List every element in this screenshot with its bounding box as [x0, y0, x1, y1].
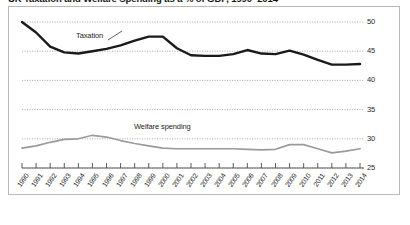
y-axis-tick-label: 35 [367, 105, 375, 114]
series-line-welfare-spending [22, 135, 360, 153]
footer-band [0, 207, 410, 225]
y-axis-tick-label: 30 [367, 134, 375, 143]
gridlines [22, 22, 364, 168]
series-line-taxation [22, 22, 360, 65]
series-lines [22, 22, 360, 153]
y-axis-tick-label: 40 [367, 75, 375, 84]
series-label-welfare: Welfare spending [134, 122, 191, 131]
y-axis-tick-label: 45 [367, 46, 375, 55]
x-axis [22, 163, 364, 168]
series-label-taxation: Taxation [76, 31, 103, 40]
y-axis-tick-label: 25 [367, 163, 375, 172]
y-axis-tick-label: 50 [367, 17, 375, 26]
taxation-label-leader [108, 31, 122, 40]
